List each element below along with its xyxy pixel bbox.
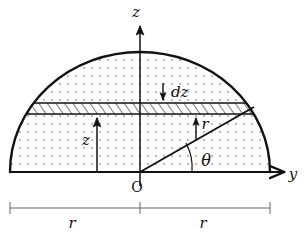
theta-label: θ [201, 151, 211, 170]
dimension-right-label: r [199, 214, 207, 232]
y-axis-label: y [288, 165, 298, 183]
z-height-label: z [81, 131, 90, 149]
dz-label: dz [171, 83, 189, 101]
radius-label: r [201, 115, 209, 133]
origin-label: O [131, 179, 142, 195]
hemisphere-cross-section-diagram: z y O dz z r θ r r [0, 0, 308, 241]
figure-canvas: z y O dz z r θ r r [0, 0, 308, 241]
dimension-left-label: r [68, 214, 76, 232]
z-axis-label: z [131, 3, 140, 21]
dimension-bar [10, 202, 270, 214]
